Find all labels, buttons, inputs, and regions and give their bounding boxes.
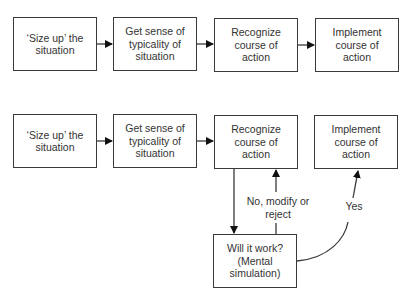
row2-size-up-box: ‘Size up’ the situation bbox=[13, 114, 97, 168]
row2-recognize-box: Recognize course of action bbox=[214, 115, 298, 169]
box-label: Implement course of action bbox=[322, 26, 392, 64]
mental-simulation-box: Will it work? (Mental simulation) bbox=[213, 234, 297, 288]
box-label: Recognize course of action bbox=[221, 26, 291, 64]
yes-label: Yes bbox=[342, 200, 366, 213]
box-label: Recognize course of action bbox=[221, 123, 291, 161]
box-label: ‘Size up’ the situation bbox=[20, 32, 90, 57]
box-label: Get sense of typicality of situation bbox=[120, 122, 190, 160]
box-label: ‘Size up’ the situation bbox=[20, 129, 90, 154]
box-label: Implement course of action bbox=[321, 123, 391, 161]
row1-recognize-box: Recognize course of action bbox=[214, 18, 298, 72]
row2-typicality-box: Get sense of typicality of situation bbox=[113, 114, 197, 168]
box-label: Will it work? (Mental simulation) bbox=[224, 242, 286, 280]
row2-implement-box: Implement course of action bbox=[314, 115, 398, 169]
row1-typicality-box: Get sense of typicality of situation bbox=[113, 17, 197, 71]
row1-size-up-box: ‘Size up’ the situation bbox=[13, 17, 97, 71]
no-modify-reject-label: No, modify or reject bbox=[242, 195, 314, 220]
box-label: Get sense of typicality of situation bbox=[120, 25, 190, 63]
row1-implement-box: Implement course of action bbox=[315, 18, 399, 72]
